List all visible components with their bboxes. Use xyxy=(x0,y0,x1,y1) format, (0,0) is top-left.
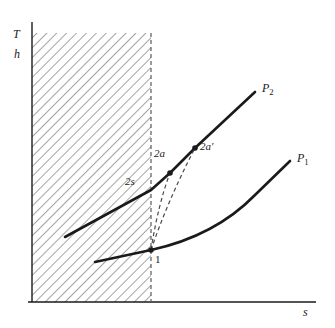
curve-label-p2: P2 xyxy=(262,82,274,97)
state-point-1-marker xyxy=(148,247,154,253)
x-axis-label-entropy: s xyxy=(303,306,308,318)
state-point-label-1: 1 xyxy=(155,254,161,265)
state-point-2a-marker xyxy=(167,170,173,176)
y-axis-label-temperature: T xyxy=(13,28,20,40)
curve-label-p1: P1 xyxy=(297,152,309,167)
curve-label-p2-subscript: 2 xyxy=(269,87,273,97)
dashed-process-1-to-2aprime xyxy=(151,148,195,250)
two-phase-hatched-region xyxy=(32,33,151,302)
y-axis-label-enthalpy: h xyxy=(14,48,20,60)
state-point-2ap-marker xyxy=(192,145,198,151)
curve-label-p1-subscript: 1 xyxy=(304,157,308,167)
dashed-process-1-to-2a xyxy=(151,173,170,250)
state-point-label-2s: 2s xyxy=(125,176,135,187)
state-point-label-2a: 2a xyxy=(154,148,165,159)
ts-diagram-figure: T h s P2 P1 1 2s 2a 2a' xyxy=(0,0,335,328)
state-point-label-2a-prime: 2a' xyxy=(200,141,213,152)
ts-diagram-canvas xyxy=(0,0,335,328)
